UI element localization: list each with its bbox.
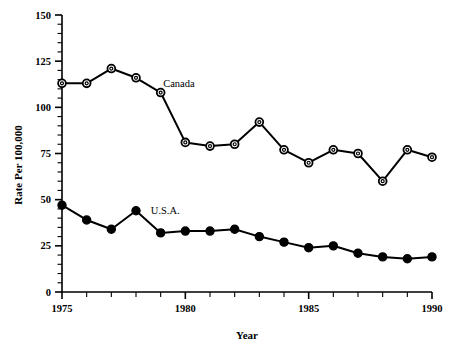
data-point (83, 216, 91, 224)
data-point (58, 201, 66, 209)
chart-canvas: 0255075100125150 1975198019851990 Canada… (0, 0, 456, 360)
data-point (379, 177, 387, 185)
line-chart: 0255075100125150 1975198019851990 Canada… (0, 0, 456, 360)
y-tick-label: 50 (41, 194, 52, 205)
x-tick-label: 1990 (422, 303, 443, 314)
data-point (132, 207, 140, 215)
data-point (157, 89, 165, 97)
x-tick-label: 1975 (52, 303, 73, 314)
data-point (329, 242, 337, 250)
data-point (305, 159, 313, 167)
data-point (305, 244, 313, 252)
data-point (280, 238, 288, 246)
data-point (255, 118, 263, 126)
data-point (181, 227, 189, 235)
data-point (181, 139, 189, 147)
y-tick-label: 100 (35, 102, 51, 113)
data-point (354, 249, 362, 257)
y-tick-label: 0 (46, 287, 51, 298)
data-point (206, 142, 214, 150)
data-point (280, 146, 288, 154)
y-tick-label: 150 (35, 10, 51, 21)
series-label-canada: Canada (163, 78, 195, 89)
x-tick-label: 1985 (298, 303, 319, 314)
x-axis-title: Year (236, 329, 258, 341)
y-tick-label: 25 (41, 240, 52, 251)
series-label-usa: U.S.A. (151, 205, 180, 216)
x-tick-label: 1980 (175, 303, 196, 314)
data-point (403, 146, 411, 154)
data-point (58, 79, 66, 87)
y-tick-label: 75 (41, 148, 52, 159)
data-point (379, 253, 387, 261)
y-axis-title: Rate Per 100,000 (12, 125, 24, 205)
data-point (329, 146, 337, 154)
data-point (107, 65, 115, 73)
data-point (157, 229, 165, 237)
data-point (354, 150, 362, 158)
data-point (231, 225, 239, 233)
data-point (403, 255, 411, 263)
data-point (83, 79, 91, 87)
y-tick-label: 125 (35, 56, 51, 67)
data-point (428, 253, 436, 261)
data-point (107, 225, 115, 233)
data-point (231, 140, 239, 148)
data-point (428, 153, 436, 161)
data-point (132, 74, 140, 82)
data-point (206, 227, 214, 235)
data-point (255, 233, 263, 241)
